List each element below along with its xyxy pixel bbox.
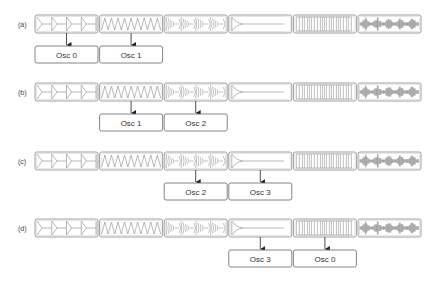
oscillator-box: Osc 3: [229, 250, 292, 267]
oscillator-label: Osc 1: [121, 51, 142, 60]
waveform-box: [35, 152, 98, 170]
oscillator-box: Osc 2: [164, 183, 227, 200]
row-label: (b): [18, 89, 27, 97]
waveform-frame: [293, 219, 356, 237]
waveform-box: [358, 152, 421, 170]
diagram-row: (c)Osc 2Osc 3: [18, 152, 421, 200]
oscillator-box: Osc 1: [100, 46, 163, 63]
oscillator-label: Osc 3: [250, 255, 271, 264]
waveform-box: [293, 15, 356, 33]
oscillator-label: Osc 2: [185, 119, 206, 128]
waveform-box: [100, 83, 163, 101]
oscillator-label: Osc 3: [250, 188, 271, 197]
waveform-frame: [293, 83, 356, 101]
diagram-row: (d)Osc 3Osc 0: [18, 219, 421, 267]
waveform-box: [164, 15, 227, 33]
waveform-box: [229, 152, 292, 170]
oscillator-box: Osc 0: [35, 46, 98, 63]
oscillator-label: Osc 1: [121, 119, 142, 128]
waveform-box: [164, 152, 227, 170]
oscillator-label: Osc 0: [314, 255, 335, 264]
oscillator-label: Osc 2: [185, 188, 206, 197]
waveform-box: [358, 83, 421, 101]
diagram-row: (a)Osc 0Osc 1: [18, 15, 421, 63]
waveform-box: [35, 219, 98, 237]
row-label: (d): [18, 225, 27, 233]
row-label: (a): [18, 21, 27, 29]
waveform-box: [100, 152, 163, 170]
waveform-box: [293, 219, 356, 237]
oscillator-box: Osc 2: [164, 114, 227, 131]
waveform-box: [293, 83, 356, 101]
waveform-box: [100, 15, 163, 33]
waveform-box: [35, 83, 98, 101]
waveform-box: [358, 219, 421, 237]
oscillator-diagram: (a)Osc 0Osc 1(b)Osc 1Osc 2(c)Osc 2Osc 3(…: [0, 0, 441, 281]
oscillator-box: Osc 1: [100, 114, 163, 131]
waveform-box: [229, 83, 292, 101]
diagram-row: (b)Osc 1Osc 2: [18, 83, 421, 131]
waveform-box: [35, 15, 98, 33]
waveform-box: [164, 83, 227, 101]
waveform-box: [164, 219, 227, 237]
waveform-box: [293, 152, 356, 170]
waveform-box: [100, 219, 163, 237]
waveform-box: [229, 15, 292, 33]
oscillator-box: Osc 0: [293, 250, 356, 267]
waveform-box: [229, 219, 292, 237]
waveform-frame: [293, 152, 356, 170]
waveform-frame: [293, 15, 356, 33]
oscillator-box: Osc 3: [229, 183, 292, 200]
oscillator-label: Osc 0: [56, 51, 77, 60]
row-label: (c): [18, 158, 26, 166]
waveform-box: [358, 15, 421, 33]
